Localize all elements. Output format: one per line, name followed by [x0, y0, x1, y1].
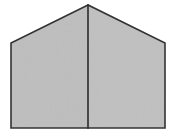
pentagon-gable-figure	[0, 0, 175, 138]
figure-canvas	[0, 0, 175, 138]
